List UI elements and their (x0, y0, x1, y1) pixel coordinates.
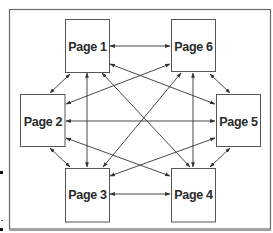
margin-mark (1, 220, 3, 221)
page-node-p4: Page 4 (172, 169, 216, 223)
page-label: Page 1 (68, 40, 107, 54)
margin-mark (0, 171, 3, 174)
page-label: Page 4 (174, 188, 213, 202)
page-label: Page 6 (174, 40, 213, 54)
page-node-p2: Page 2 (21, 95, 66, 147)
page-label: Page 5 (219, 115, 258, 129)
page-node-p5: Page 5 (217, 95, 261, 147)
page-node-p6: Page 6 (172, 20, 216, 72)
margin-mark (0, 228, 3, 231)
page-label: Page 2 (24, 115, 63, 129)
site-structure-diagram: Page 1 Page 6 Page 2 Page 5 Page 3 Page … (0, 0, 273, 233)
page-node-p3: Page 3 (66, 169, 110, 223)
page-node-p1: Page 1 (66, 20, 110, 73)
page-label: Page 3 (68, 188, 107, 202)
